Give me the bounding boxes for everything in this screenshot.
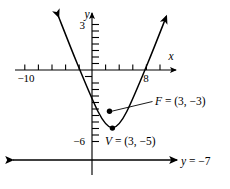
vertex-point-dot: [110, 125, 115, 130]
y-tick-label-neg-6: −6: [73, 135, 85, 147]
directrix-label-value: = −7: [186, 155, 211, 167]
y-axis: [85, 13, 99, 175]
x-axis: [15, 65, 176, 71]
x-axis-label: x: [167, 50, 174, 62]
vertex-label-value: = (3, −5): [112, 135, 156, 148]
focus-point-dot: [107, 109, 112, 114]
focus-label: F = (3, −3): [154, 95, 206, 108]
x-tick-label-8: 8: [143, 72, 149, 84]
directrix-label: y = −7: [180, 155, 211, 168]
focus-label-value: = (3, −3): [162, 95, 206, 108]
x-tick-label-neg-10: −10: [17, 72, 35, 84]
vertex-label: V = (3, −5): [105, 135, 156, 148]
parabola-graph-figure: x y −10 8 3 −6 F = (3, −3) V = (3, −5) y…: [0, 0, 230, 189]
y-tick-label-3: 3: [80, 19, 86, 31]
